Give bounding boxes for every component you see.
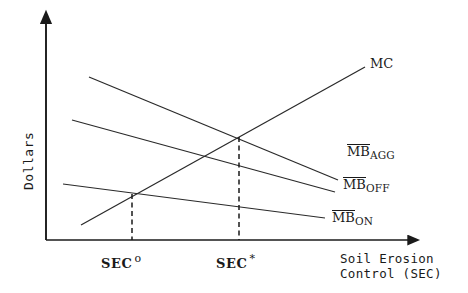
tick-label-sec-zero: SECo <box>101 253 142 270</box>
mb-on-subscript: ON <box>355 215 373 227</box>
mb-on-base-text: MB <box>332 210 355 225</box>
mb-off-base: MB <box>343 178 366 191</box>
tick-label-sec-star-superscript: * <box>249 252 255 265</box>
figure-container: Dollars Soil Erosion Control (SEC) MC MB… <box>0 0 468 293</box>
curve-label-mb-on: MB ON <box>332 211 373 227</box>
curve-mb-agg <box>89 77 338 180</box>
tick-label-sec-zero-base: SEC <box>101 256 132 271</box>
curve-mb-off <box>72 120 335 192</box>
mb-off-subscript: OFF <box>366 182 390 194</box>
economics-line-chart <box>0 0 468 293</box>
curve-label-mb-off: MB OFF <box>343 178 390 194</box>
curve-label-mc: MC <box>370 57 393 70</box>
x-axis-title-line2: Control (SEC) <box>340 266 442 281</box>
tick-label-sec-star-base: SEC <box>216 256 247 271</box>
mb-on-base: MB <box>332 211 355 224</box>
tick-label-sec-zero-superscript: o <box>134 252 141 265</box>
curve-label-mc-text: MC <box>370 56 393 71</box>
mb-agg-base-text: MB <box>347 144 370 159</box>
overbar-icon <box>343 177 366 178</box>
curve-label-mb-agg: MB AGG <box>347 145 395 161</box>
x-axis-title: Soil Erosion Control (SEC) <box>340 251 442 281</box>
x-axis-title-line1: Soil Erosion <box>340 251 442 266</box>
overbar-icon <box>347 144 370 145</box>
mb-off-base-text: MB <box>343 177 366 192</box>
overbar-icon <box>332 210 355 211</box>
mb-agg-base: MB <box>347 145 370 158</box>
tick-label-sec-star: SEC* <box>216 253 256 270</box>
mb-agg-subscript: AGG <box>370 149 395 161</box>
y-axis-title: Dollars <box>22 170 35 190</box>
